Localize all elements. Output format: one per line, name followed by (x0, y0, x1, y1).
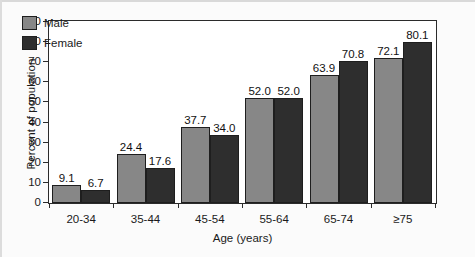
bar-female-45-54: 34.0 (210, 135, 239, 203)
y-axis-tick-label: 20 (28, 156, 41, 168)
x-axis-group-label: 35-44 (131, 213, 160, 225)
x-axis-group-label: 20-34 (66, 213, 95, 225)
bar-value-label: 6.7 (88, 177, 104, 189)
bar-value-label: 63.9 (313, 62, 335, 74)
bar-male-55-64: 52.0 (245, 98, 274, 203)
bar-male-45-54: 37.7 (181, 127, 210, 203)
x-axis-tick (306, 203, 307, 208)
chart-legend: Male Female (22, 16, 82, 56)
x-axis-tick (113, 203, 114, 208)
bar-value-label: 52.0 (248, 85, 270, 97)
bar-chart-figure: Percent of population 010203040506070809… (0, 0, 475, 257)
bar-value-label: 17.6 (149, 155, 171, 167)
x-axis-group-label: 45-54 (195, 213, 224, 225)
bar-female-65-74: 70.8 (339, 61, 368, 203)
y-axis-tick-label: 70 (28, 55, 41, 67)
x-axis-tick (435, 203, 436, 208)
bar-male-≥75: 72.1 (374, 58, 403, 203)
bar-value-label: 9.1 (59, 172, 75, 184)
bar-value-label: 34.0 (213, 122, 235, 134)
x-axis-tick (371, 203, 372, 208)
bar-male-20-34: 9.1 (52, 185, 81, 203)
y-axis-tick-label: 30 (28, 136, 41, 148)
x-axis-group-label: ≥75 (393, 213, 412, 225)
x-axis-group-label: 65-74 (324, 213, 353, 225)
x-axis-group-label: 55-64 (259, 213, 288, 225)
y-axis-tick (43, 182, 49, 183)
legend-label-female: Female (44, 37, 82, 49)
legend-label-male: Male (44, 17, 69, 29)
y-axis-tick-label: 10 (28, 176, 41, 188)
bar-value-label: 80.1 (406, 29, 428, 41)
y-axis-tick (43, 122, 49, 123)
y-axis-tick (43, 162, 49, 163)
x-axis-tick (178, 203, 179, 208)
bar-female-35-44: 17.6 (146, 168, 175, 203)
bar-value-label: 72.1 (377, 45, 399, 57)
bar-female-≥75: 80.1 (403, 42, 432, 203)
bar-value-label: 24.4 (120, 141, 142, 153)
legend-item-male: Male (22, 16, 82, 30)
y-axis-tick-label: 50 (28, 95, 41, 107)
y-axis-tick-label: 60 (28, 75, 41, 87)
y-axis-tick (43, 101, 49, 102)
bar-value-label: 37.7 (184, 114, 206, 126)
y-axis-tick-label: 0 (35, 196, 41, 208)
legend-swatch-female-icon (22, 36, 37, 50)
scan-border-left (0, 0, 2, 257)
x-axis-tick (242, 203, 243, 208)
y-axis-tick (43, 142, 49, 143)
x-axis-title: Age (years) (49, 232, 436, 244)
legend-item-female: Female (22, 36, 82, 50)
y-axis-tick (43, 81, 49, 82)
scan-border-top (0, 0, 475, 2)
legend-swatch-male-icon (22, 16, 37, 30)
bar-male-65-74: 63.9 (310, 75, 339, 204)
bar-value-label: 70.8 (342, 48, 364, 60)
bar-female-20-34: 6.7 (81, 190, 110, 203)
bar-female-55-64: 52.0 (274, 98, 303, 203)
plot-inner: 010203040506070809020-349.16.735-4424.41… (49, 21, 436, 203)
bar-male-35-44: 24.4 (117, 154, 146, 203)
y-axis-tick (43, 61, 49, 62)
x-axis-tick (49, 203, 50, 208)
plot-area: 010203040506070809020-349.16.735-4424.41… (48, 20, 437, 204)
bar-value-label: 52.0 (277, 85, 299, 97)
y-axis-tick-label: 40 (28, 116, 41, 128)
